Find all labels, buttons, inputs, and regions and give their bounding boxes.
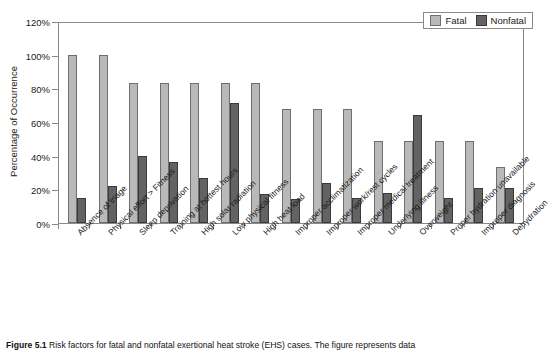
y-axis-tick-label: 20%: [6, 186, 50, 196]
chart-legend: Fatal Nonfatal: [423, 12, 533, 29]
y-axis-tick-label: 40%: [6, 153, 50, 163]
bar-fatal: [68, 55, 77, 223]
legend-label-nonfatal: Nonfatal: [491, 15, 526, 26]
figure-caption-label: Figure 5.1: [6, 340, 47, 350]
legend-label-fatal: Fatal: [445, 15, 466, 26]
legend-swatch-nonfatal: [476, 15, 487, 26]
y-axis-tick-label: 80%: [6, 85, 50, 95]
legend-swatch-fatal: [430, 15, 441, 26]
y-axis-tick-label: 100%: [6, 52, 50, 62]
bar-groups: [59, 23, 523, 223]
plot-area: [58, 22, 524, 224]
bar-group: [62, 23, 93, 223]
y-axis-tick-label: 60%: [6, 119, 50, 129]
legend-item-nonfatal: Nonfatal: [476, 15, 526, 26]
figure-caption-text: Risk factors for fatal and nonfatal exer…: [49, 340, 415, 350]
x-axis-labels: Absence of triagePhysical effort > Fitne…: [0, 228, 545, 328]
figure-caption: Figure 5.1 Risk factors for fatal and no…: [6, 340, 539, 351]
legend-item-fatal: Fatal: [430, 15, 466, 26]
y-axis-tick-label: 120%: [6, 18, 50, 28]
